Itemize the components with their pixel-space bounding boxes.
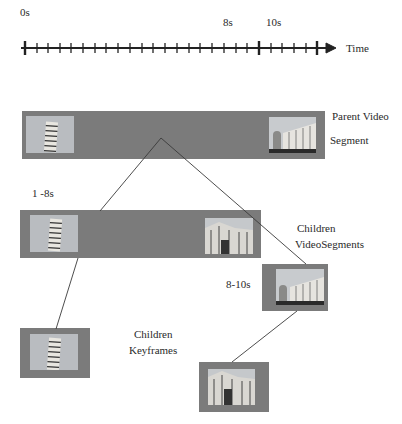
child2-thumbnail: [276, 269, 324, 305]
children-keyframes-label-line1: Children: [134, 328, 173, 341]
children-segments-label-line2: VideoSegments: [295, 238, 364, 251]
parent-right-thumbnail: [269, 117, 316, 153]
cathedral-closeup-icon: [208, 369, 255, 405]
segment1-range-label: 1 -8s: [32, 187, 54, 200]
cathedral-closeup-icon: [205, 218, 253, 254]
keyframe1-thumbnail: [30, 334, 78, 370]
leaning-tower-icon: [30, 215, 78, 252]
parent-label-line2: Segment: [330, 134, 369, 147]
leaning-tower-icon: [26, 116, 74, 153]
arrow-head-icon: [326, 43, 336, 53]
children-segments-label-line1: Children: [297, 222, 336, 235]
keyframe2-thumbnail: [208, 369, 255, 405]
cathedral-square-icon: [276, 269, 324, 305]
children-keyframes-label-line2: Keyframes: [129, 344, 177, 357]
segment2-range-label: 8-10s: [226, 278, 250, 291]
parent-label-line1: Parent Video: [332, 110, 389, 123]
child1-left-thumbnail: [30, 215, 78, 252]
cathedral-square-icon: [269, 117, 316, 153]
leaning-tower-icon: [30, 334, 78, 370]
child1-right-thumbnail: [205, 218, 253, 254]
timeline-axis: [21, 41, 336, 55]
parent-left-thumbnail: [26, 116, 74, 153]
